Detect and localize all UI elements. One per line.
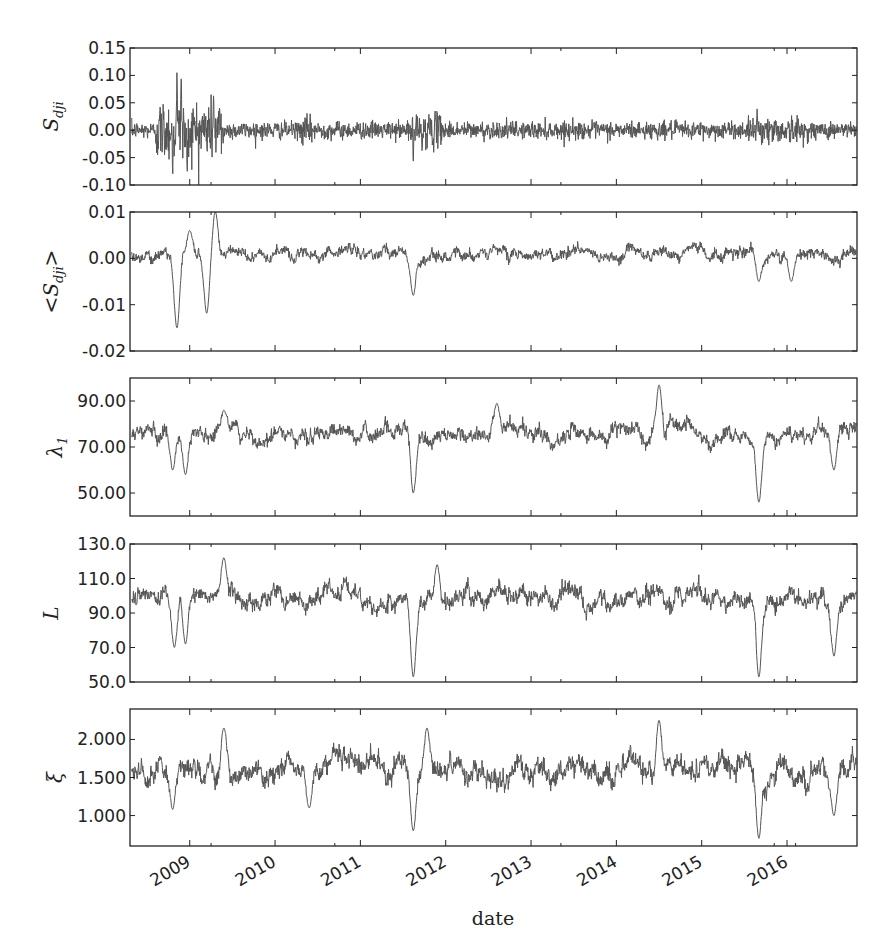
y-tick-label: 2.000 <box>77 729 126 749</box>
y-tick-label: 1.000 <box>77 806 126 826</box>
x-tick-label: 2013 <box>488 851 535 890</box>
y-tick-label: -0.05 <box>82 148 126 168</box>
panel-2: 0.010.00-0.01-0.02<Sdji> <box>39 202 857 361</box>
y-axis-label: λ1 <box>43 437 70 459</box>
series-line <box>132 212 856 328</box>
panel-4: 130.0110.090.070.050.0L <box>39 534 857 692</box>
panel-3: 90.0070.0050.00λ1 <box>43 378 857 516</box>
axes-frame <box>130 212 857 351</box>
x-tick-label: 2014 <box>573 851 620 890</box>
y-axis-label: ξ <box>43 771 67 783</box>
y-tick-label: 110.0 <box>77 569 126 589</box>
series-line <box>132 720 856 838</box>
x-tick-label: 2015 <box>658 851 705 890</box>
y-tick-label: -0.02 <box>82 341 126 361</box>
y-tick-label: 50.0 <box>88 672 126 692</box>
y-tick-label: 0.05 <box>88 93 126 113</box>
x-axis-label: date <box>472 907 514 929</box>
y-axis-label: Sdji <box>39 101 66 131</box>
y-tick-label: 0.00 <box>88 120 126 140</box>
x-tick-label: 2010 <box>232 851 279 890</box>
series-line <box>132 73 856 193</box>
series-line <box>132 558 856 677</box>
axes-frame <box>130 378 857 516</box>
y-tick-label: 0.01 <box>88 202 126 222</box>
series-line <box>132 385 856 502</box>
axes-frame <box>130 544 857 682</box>
y-tick-label: 130.0 <box>77 534 126 554</box>
figure: 0.150.100.050.00-0.05-0.10Sdji0.010.00-0… <box>0 0 888 943</box>
y-tick-label: 90.0 <box>88 603 126 623</box>
y-tick-label: 0.15 <box>88 38 126 58</box>
x-tick-label: 2012 <box>402 851 449 890</box>
y-tick-label: 50.00 <box>77 483 126 503</box>
x-tick-label: 2009 <box>146 851 193 890</box>
x-tick-label: 2016 <box>744 851 791 890</box>
y-tick-label: -0.01 <box>82 295 126 315</box>
y-tick-label: 1.500 <box>77 768 126 788</box>
y-tick-label: 70.0 <box>88 638 126 658</box>
y-axis-label: <Sdji> <box>39 250 66 314</box>
y-tick-label: 90.00 <box>77 391 126 411</box>
x-tick-label: 2011 <box>317 851 364 890</box>
panel-1: 0.150.100.050.00-0.05-0.10Sdji <box>39 38 857 195</box>
panel-5: 2.0001.5001.000ξ <box>43 709 857 846</box>
y-tick-label: -0.10 <box>82 175 126 195</box>
y-tick-label: 0.10 <box>88 65 126 85</box>
y-tick-label: 70.00 <box>77 437 126 457</box>
stacked-time-series-chart: 0.150.100.050.00-0.05-0.10Sdji0.010.00-0… <box>0 0 888 943</box>
y-axis-label: L <box>39 606 63 620</box>
x-tick-labels: 20092010201120122013201420152016 <box>146 851 791 890</box>
y-tick-label: 0.00 <box>88 248 126 268</box>
panels: 0.150.100.050.00-0.05-0.10Sdji0.010.00-0… <box>39 38 857 846</box>
